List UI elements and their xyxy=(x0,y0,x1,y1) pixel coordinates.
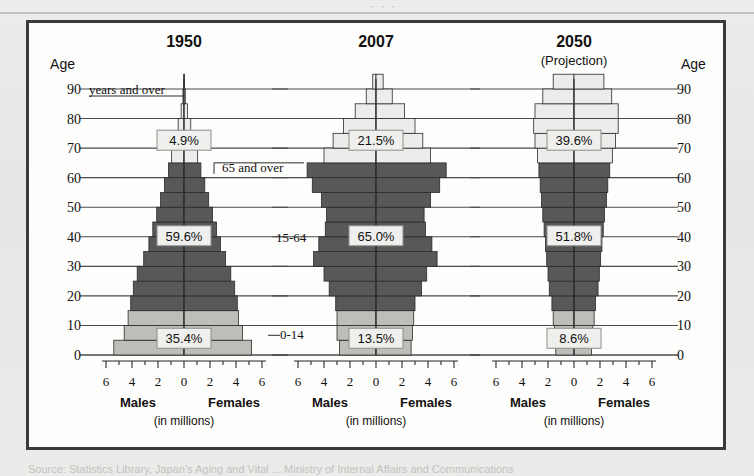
bar-female-45-49 xyxy=(376,207,424,222)
bar-male-15-19 xyxy=(552,296,574,311)
bar-male-30-34 xyxy=(314,252,376,267)
x-tick-label: 2 xyxy=(155,374,162,389)
x-tick-label: 6 xyxy=(493,374,500,389)
bar-male-20-24 xyxy=(329,281,376,296)
bar-female-80-84 xyxy=(376,104,405,119)
bar-male-50-54 xyxy=(542,192,575,207)
bar-male-60-64 xyxy=(539,163,574,178)
y-tick-label-right-60: 60 xyxy=(677,171,691,186)
x-tick-label: 2 xyxy=(207,374,214,389)
x-tick-label: 0 xyxy=(373,374,380,389)
y-tick-label-right-0: 0 xyxy=(677,348,684,363)
x-tick-label: 2 xyxy=(399,374,406,389)
figure-inner: 64202461950MalesFemales(in millions)4.9%… xyxy=(29,23,723,447)
bar-female-50-54 xyxy=(376,192,431,207)
x-tick-label: 0 xyxy=(181,374,188,389)
y-tick-label-right-90: 90 xyxy=(677,82,691,97)
bar-female-55-59 xyxy=(574,178,608,193)
bar-female-80-84 xyxy=(574,104,618,119)
panel-title-2007: 2007 xyxy=(358,33,394,50)
percent-label-working-1950: 59.6% xyxy=(166,229,203,244)
annot-65-and-over: 65 and over xyxy=(222,160,284,175)
bar-male-15-19 xyxy=(336,296,376,311)
panel-subtitle-2050: (Projection) xyxy=(541,53,607,68)
axis-label-right: Age xyxy=(681,56,706,72)
males-label: Males xyxy=(510,395,546,410)
x-tick-label: 4 xyxy=(129,374,136,389)
percent-label-old-2050: 39.6% xyxy=(556,133,593,148)
bar-female-55-59 xyxy=(184,178,205,193)
units-label: (in millions) xyxy=(346,414,407,428)
bar-female-55-59 xyxy=(376,178,440,193)
bar-male-30-34 xyxy=(144,252,184,267)
percent-label-old-1950: 4.9% xyxy=(169,133,199,148)
bar-female-45-49 xyxy=(184,207,213,222)
bar-female-50-54 xyxy=(184,192,209,207)
x-tick-label: 4 xyxy=(233,374,240,389)
males-label: Males xyxy=(312,395,348,410)
bar-male-90+ xyxy=(553,74,574,89)
percent-label-old-2007: 21.5% xyxy=(358,133,395,148)
y-tick-label-right-10: 10 xyxy=(677,318,691,333)
x-tick-label: 0 xyxy=(571,374,578,389)
bar-female-25-29 xyxy=(184,266,231,281)
bar-male-80-84 xyxy=(535,104,574,119)
bar-female-10-14 xyxy=(574,311,594,326)
y-tick-label-left-60: 60 xyxy=(67,171,81,186)
bar-male-45-49 xyxy=(327,207,376,222)
y-tick-label-right-80: 80 xyxy=(677,112,691,127)
y-tick-label-left-30: 30 xyxy=(67,259,81,274)
bar-male-50-54 xyxy=(321,192,376,207)
y-tick-label-left-70: 70 xyxy=(67,141,81,156)
figure-frame: 64202461950MalesFemales(in millions)4.9%… xyxy=(26,20,726,450)
x-tick-label: 4 xyxy=(425,374,432,389)
females-label: Females xyxy=(208,395,260,410)
bar-male-10-14 xyxy=(128,311,184,326)
x-tick-label: 4 xyxy=(623,374,630,389)
bar-male-80-84 xyxy=(355,104,376,119)
x-tick-label: 4 xyxy=(321,374,328,389)
percent-label-working-2007: 65.0% xyxy=(358,229,395,244)
bar-male-85-89 xyxy=(366,89,376,104)
bar-female-20-24 xyxy=(184,281,235,296)
bar-male-10-14 xyxy=(553,311,574,326)
y-tick-label-right-70: 70 xyxy=(677,141,691,156)
y-tick-label-left-0: 0 xyxy=(74,348,81,363)
x-tick-label: 6 xyxy=(649,374,656,389)
panel-title-2050: 2050 xyxy=(556,33,592,50)
annot-0-14: 0-14 xyxy=(280,327,304,342)
bar-female-30-34 xyxy=(184,252,226,267)
bar-male-25-29 xyxy=(548,266,574,281)
bar-female-10-14 xyxy=(184,311,239,326)
source-caption-cut: Source: Statistics Library, Japan's Agin… xyxy=(28,463,728,475)
percent-label-young-2007: 13.5% xyxy=(358,331,395,346)
annot-years-and-over: years and over xyxy=(89,82,165,97)
scan-top-rule xyxy=(0,12,754,14)
y-tick-label-left-90: 90 xyxy=(67,82,81,97)
bar-male-55-59 xyxy=(312,178,376,193)
y-tick-label-left-10: 10 xyxy=(67,318,81,333)
bar-male-10-14 xyxy=(337,311,376,326)
percent-label-young-2050: 8.6% xyxy=(559,331,589,346)
bar-female-60-64 xyxy=(184,163,201,178)
percent-label-working-2050: 51.8% xyxy=(556,229,593,244)
panel-title-1950: 1950 xyxy=(166,33,202,50)
bar-female-85-89 xyxy=(574,89,612,104)
bar-male-85-89 xyxy=(543,89,574,104)
bar-male-50-54 xyxy=(161,192,184,207)
annot-15-64: 15-64 xyxy=(276,230,307,245)
y-tick-label-right-50: 50 xyxy=(677,200,691,215)
bar-female-30-34 xyxy=(376,252,437,267)
bar-male-55-59 xyxy=(165,178,185,193)
pyramid-panel-2050: 64202462050(Projection)MalesFemales(in m… xyxy=(470,33,678,428)
bar-male-20-24 xyxy=(549,281,574,296)
females-label: Females xyxy=(598,395,650,410)
bar-male-25-29 xyxy=(137,266,184,281)
bar-female-20-24 xyxy=(574,281,598,296)
x-tick-label: 6 xyxy=(259,374,266,389)
bar-female-20-24 xyxy=(376,281,422,296)
bar-male-20-24 xyxy=(133,281,184,296)
bar-male-60-64 xyxy=(168,163,184,178)
bar-female-45-49 xyxy=(574,207,605,222)
bar-female-15-19 xyxy=(574,296,595,311)
